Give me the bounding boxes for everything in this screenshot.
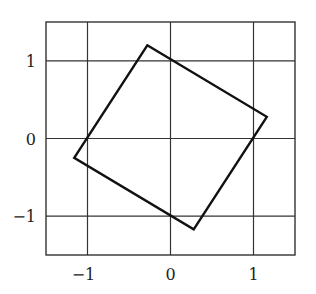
y-tick-labels: −101 xyxy=(12,52,36,226)
y-tick-label: −1 xyxy=(12,207,36,226)
y-tick-label: 0 xyxy=(26,130,36,149)
x-tick-label: 1 xyxy=(248,265,258,284)
x-tick-label: 0 xyxy=(165,265,175,284)
x-tick-label: −1 xyxy=(72,265,96,284)
x-tick-labels: −101 xyxy=(72,265,259,284)
y-tick-label: 1 xyxy=(26,52,36,71)
chart: −101 −101 xyxy=(0,0,316,294)
grid-layer xyxy=(46,22,295,255)
